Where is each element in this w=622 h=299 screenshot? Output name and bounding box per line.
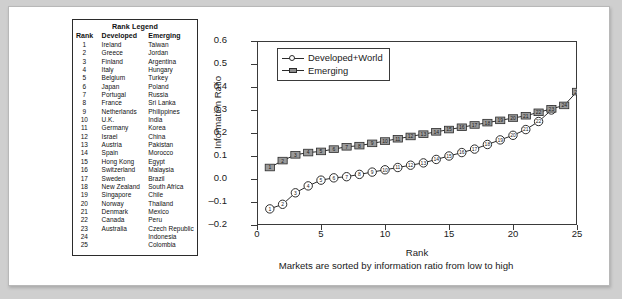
column-header-rank: Rank xyxy=(73,32,102,41)
data-point-label: 3 xyxy=(294,190,297,196)
data-point-label: 7 xyxy=(345,144,348,150)
x-axis-label: Rank xyxy=(257,247,577,258)
data-point-label: 12 xyxy=(408,162,414,168)
data-point-label: 19 xyxy=(497,117,503,123)
table-cell: 25 xyxy=(73,241,102,249)
x-tick-label: 0 xyxy=(244,229,270,239)
table-cell: 7 xyxy=(73,91,102,99)
table-header-row: Rank Developed Emerging xyxy=(73,32,197,41)
table-cell: Japan xyxy=(102,83,149,91)
chart-caption: Markets are sorted by information ratio … xyxy=(191,260,601,271)
legend-label-emerging: Emerging xyxy=(308,65,348,78)
rank-legend-grid: Rank Developed Emerging 1IrelandTaiwan2G… xyxy=(73,32,197,250)
table-cell: France xyxy=(102,99,149,107)
table-row: 14SpainMorocco xyxy=(73,149,197,157)
table-cell: 21 xyxy=(73,208,102,216)
table-cell: Hong Kong xyxy=(102,158,149,166)
data-point-label: 1 xyxy=(268,164,271,170)
table-cell: Israel xyxy=(102,133,149,141)
y-tick-label: 0.0 xyxy=(187,173,227,182)
data-point-label: 2 xyxy=(281,201,284,207)
table-cell: Austria xyxy=(102,141,149,149)
table-cell: 2 xyxy=(73,49,102,57)
table-cell: Singapore xyxy=(102,191,149,199)
data-point-label: 6 xyxy=(332,175,335,181)
table-cell: Denmark xyxy=(102,208,149,216)
table-row: 18New ZealandSouth Africa xyxy=(73,183,197,191)
table-row: 25Colombia xyxy=(73,241,197,249)
table-cell: India xyxy=(148,116,197,124)
x-tick-label: 15 xyxy=(436,229,462,239)
table-cell: U.K. xyxy=(102,116,149,124)
y-tick-label: 0.5 xyxy=(187,58,227,67)
data-point-label: 21 xyxy=(523,126,529,132)
table-row: 15Hong KongEgypt xyxy=(73,158,197,166)
table-row: 1IrelandTaiwan xyxy=(73,41,197,49)
table-row: 21DenmarkMexico xyxy=(73,208,197,216)
data-point-label: 14 xyxy=(433,156,439,162)
data-point-label: 15 xyxy=(446,153,452,159)
series-line xyxy=(270,110,552,209)
table-cell: South Africa xyxy=(148,183,197,191)
data-point-label: 10 xyxy=(382,138,388,144)
series-developed: 1234567891011121314151617181920212223 xyxy=(266,106,556,213)
table-cell: New Zealand xyxy=(102,183,149,191)
x-tick-label: 10 xyxy=(372,229,398,239)
y-tick-label: 0.1 xyxy=(187,150,227,159)
table-cell: Netherlands xyxy=(102,108,149,116)
data-point-label: 8 xyxy=(358,171,361,177)
table-cell: Switzerland xyxy=(102,166,149,174)
x-tick-mark xyxy=(385,225,386,230)
y-tick-label: –0.1 xyxy=(187,196,227,205)
table-cell: Pakistan xyxy=(148,141,197,149)
column-header-developed: Developed xyxy=(102,32,149,41)
data-point-label: 13 xyxy=(421,131,427,137)
table-row: 24Indonesia xyxy=(73,233,197,241)
x-tick-mark xyxy=(513,225,514,230)
data-point-label: 5 xyxy=(320,148,323,154)
table-cell xyxy=(102,233,149,241)
x-tick-label: 5 xyxy=(308,229,334,239)
data-point-label: 3 xyxy=(294,152,297,158)
table-row: 16SwitzerlandMalaysia xyxy=(73,166,197,174)
table-row: 23AustraliaCzech Republic xyxy=(73,225,197,233)
data-point-label: 21 xyxy=(523,113,529,119)
table-row: 10U.K.India xyxy=(73,116,197,124)
rank-legend-body: 1IrelandTaiwan2GreeceJordan3FinlandArgen… xyxy=(73,41,197,250)
table-cell: Colombia xyxy=(148,241,197,249)
table-cell: Sweden xyxy=(102,175,149,183)
table-row: 19SingaporeChile xyxy=(73,191,197,199)
data-point-label: 4 xyxy=(307,183,310,189)
table-cell: Belgium xyxy=(102,74,149,82)
data-point-label: 24 xyxy=(561,102,567,108)
table-cell: 19 xyxy=(73,191,102,199)
data-point-label: 11 xyxy=(395,164,400,170)
table-cell: Germany xyxy=(102,124,149,132)
table-row: 5BelgiumTurkey xyxy=(73,74,197,82)
table-cell: Russia xyxy=(148,91,197,99)
x-tick-mark xyxy=(321,225,322,230)
table-cell: 16 xyxy=(73,166,102,174)
data-point-label: 5 xyxy=(320,177,323,183)
table-cell: Greece xyxy=(102,49,149,57)
table-cell: 20 xyxy=(73,200,102,208)
table-cell: 12 xyxy=(73,133,102,141)
table-row: 17SwedenBrazil xyxy=(73,175,197,183)
y-tick-label: 0.2 xyxy=(187,127,227,136)
data-point-label: 16 xyxy=(459,124,465,130)
data-point-label: 1 xyxy=(268,206,271,212)
data-point-label: 20 xyxy=(510,132,516,138)
data-point-label: 17 xyxy=(472,146,478,152)
y-tick-label: 0.6 xyxy=(187,35,227,44)
table-cell: Canada xyxy=(102,216,149,224)
table-cell: 3 xyxy=(73,58,102,66)
table-row: 11GermanyKorea xyxy=(73,124,197,132)
rank-legend-table: Rank Legend Rank Developed Emerging 1Ire… xyxy=(72,19,198,256)
circle-open-marker-icon xyxy=(282,53,304,64)
table-cell: 17 xyxy=(73,175,102,183)
table-cell: Norway xyxy=(102,200,149,208)
table-row: 2GreeceJordan xyxy=(73,49,197,57)
chart-legend: Developed+World Emerging xyxy=(277,48,390,81)
data-point-label: 16 xyxy=(459,149,465,155)
table-row: 20NorwayThailand xyxy=(73,200,197,208)
